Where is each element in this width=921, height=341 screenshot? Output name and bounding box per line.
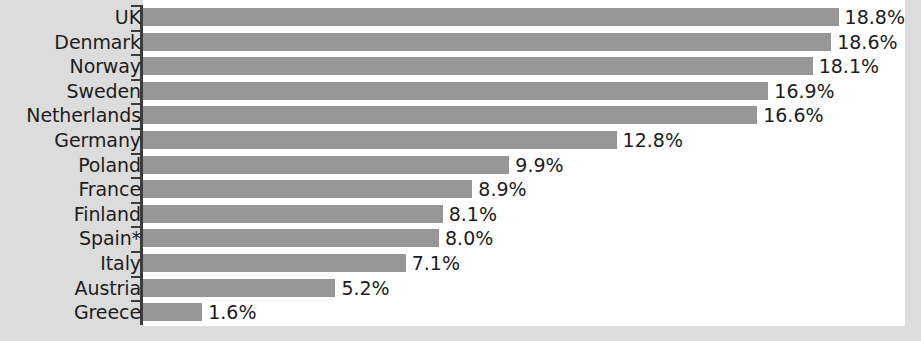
category-label: Norway xyxy=(70,54,141,79)
category-label: Finland xyxy=(74,202,141,227)
bar xyxy=(143,180,472,198)
bar xyxy=(143,33,831,51)
bar xyxy=(143,205,443,223)
category-label: Italy xyxy=(100,251,141,276)
bar-value-label: 7.1% xyxy=(406,254,460,272)
horizontal-bar-chart: UK18.8%Denmark18.6%Norway18.1%Sweden16.9… xyxy=(0,0,921,341)
category-label: Greece xyxy=(74,300,141,325)
bar xyxy=(143,106,757,124)
bar-value-label: 8.0% xyxy=(439,229,493,247)
bar-row: Finland8.1% xyxy=(0,202,921,227)
bar xyxy=(143,82,768,100)
bar-value-label: 18.8% xyxy=(839,8,905,26)
bar-value-label: 8.9% xyxy=(472,180,526,198)
bar-row: Sweden16.9% xyxy=(0,79,921,104)
bar xyxy=(143,57,813,75)
bar-track: 18.8% xyxy=(143,8,921,26)
bar-value-label: 18.1% xyxy=(813,57,879,75)
category-label: Sweden xyxy=(67,79,141,104)
category-label: Germany xyxy=(54,128,141,153)
bar-value-label: 9.9% xyxy=(509,156,563,174)
bar-track: 9.9% xyxy=(143,156,921,174)
bar-value-label: 16.9% xyxy=(768,82,834,100)
bar-track: 18.1% xyxy=(143,57,921,75)
bar xyxy=(143,8,839,26)
bar-track: 8.9% xyxy=(143,180,921,198)
bar-track: 16.9% xyxy=(143,82,921,100)
bar-track: 18.6% xyxy=(143,33,921,51)
bar-row: Denmark18.6% xyxy=(0,30,921,55)
category-label: Denmark xyxy=(54,30,141,55)
bar-row: Austria5.2% xyxy=(0,276,921,301)
bar-value-label: 16.6% xyxy=(757,106,823,124)
category-label: Poland xyxy=(78,153,141,178)
bar-row: France8.9% xyxy=(0,177,921,202)
bar-row: UK18.8% xyxy=(0,5,921,30)
bar-value-label: 12.8% xyxy=(617,131,683,149)
bar-track: 16.6% xyxy=(143,106,921,124)
category-label: Spain* xyxy=(79,226,141,251)
bar-track: 7.1% xyxy=(143,254,921,272)
bar-track: 8.1% xyxy=(143,205,921,223)
bar xyxy=(143,254,406,272)
bar-value-label: 8.1% xyxy=(443,205,497,223)
bar-row: Norway18.1% xyxy=(0,54,921,79)
bar-row: Greece1.6% xyxy=(0,300,921,325)
bar-track: 1.6% xyxy=(143,303,921,321)
category-label: Netherlands xyxy=(26,103,141,128)
bar-rows-container: UK18.8%Denmark18.6%Norway18.1%Sweden16.9… xyxy=(0,5,921,325)
bar-row: Italy7.1% xyxy=(0,251,921,276)
category-label: Austria xyxy=(75,276,141,301)
bar xyxy=(143,279,335,297)
bar-track: 8.0% xyxy=(143,229,921,247)
bar-value-label: 5.2% xyxy=(335,279,389,297)
bar-row: Spain*8.0% xyxy=(0,226,921,251)
bar-track: 5.2% xyxy=(143,279,921,297)
bar xyxy=(143,303,202,321)
bar xyxy=(143,131,617,149)
category-label: UK xyxy=(115,5,141,30)
bar-row: Netherlands16.6% xyxy=(0,103,921,128)
category-label: France xyxy=(78,177,141,202)
bar xyxy=(143,156,509,174)
bar-value-label: 18.6% xyxy=(831,33,897,51)
bar-row: Poland9.9% xyxy=(0,153,921,178)
bar-value-label: 1.6% xyxy=(202,303,256,321)
bar-row: Germany12.8% xyxy=(0,128,921,153)
bar-track: 12.8% xyxy=(143,131,921,149)
bar xyxy=(143,229,439,247)
